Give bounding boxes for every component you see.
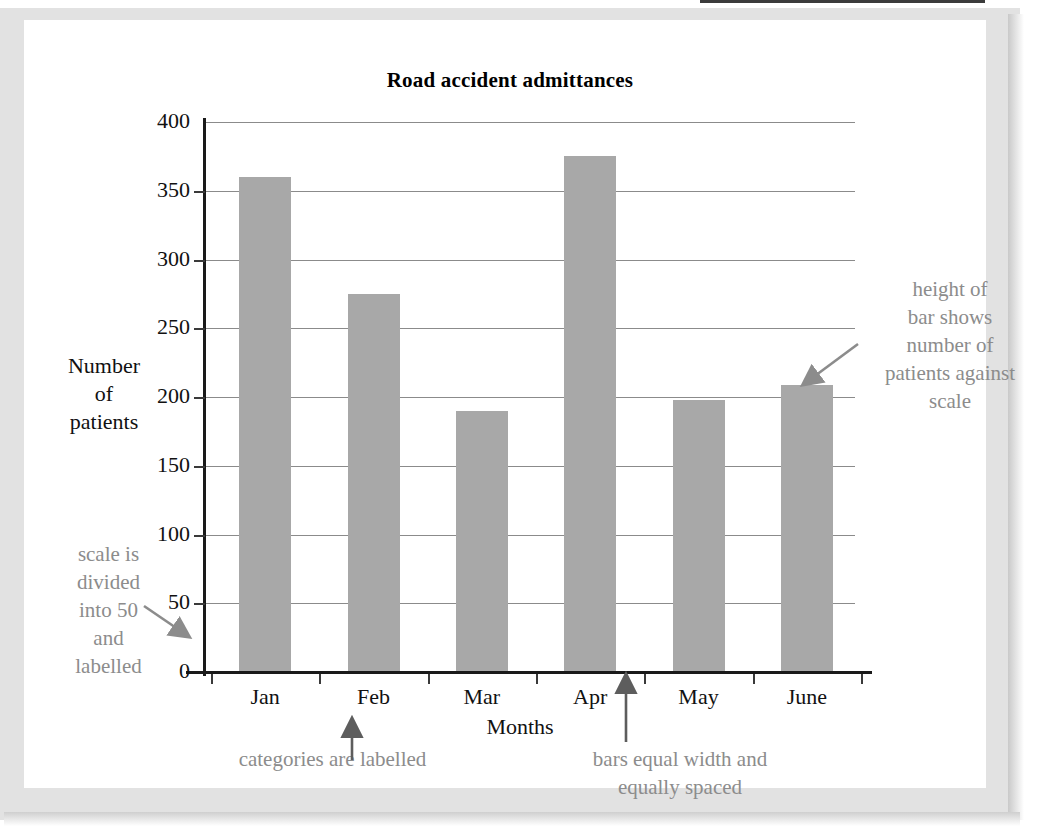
x-axis-tick [644, 674, 646, 684]
arrow-to-bar-gap [614, 672, 638, 744]
y-axis-tick [194, 260, 205, 262]
bar-june [781, 385, 833, 672]
x-axis-tick [861, 674, 863, 684]
y-axis-title-line: of [40, 380, 168, 408]
y-tick-label: 150 [130, 452, 190, 478]
gridline [205, 397, 855, 398]
annotation-height-of-bar: height ofbar showsnumber ofpatients agai… [860, 275, 1040, 415]
page-canvas: Road accident admittances 05010015020025… [0, 0, 1043, 832]
x-axis-title: Months [440, 714, 600, 740]
annotation-line: categories are labelled [200, 745, 465, 773]
x-tick-label-mar: Mar [422, 684, 542, 710]
gridline [205, 122, 855, 123]
chart-title: Road accident admittances [0, 68, 1020, 93]
y-axis-tick [194, 397, 205, 399]
x-tick-label-feb: Feb [314, 684, 434, 710]
bar-jan [239, 177, 291, 672]
bar-feb [348, 294, 400, 672]
arrow-to-feb-label [340, 716, 364, 762]
gridline [205, 535, 855, 536]
y-axis-tick [194, 466, 205, 468]
annotation-line: equally spaced [555, 773, 805, 801]
x-tick-label-june: June [747, 684, 867, 710]
annotation-bars-equal-width: bars equal width andequally spaced [555, 745, 805, 801]
gridline [205, 466, 855, 467]
x-tick-label-may: May [639, 684, 759, 710]
annotation-line: bars equal width and [555, 745, 805, 773]
y-axis-tick [194, 191, 205, 193]
annotation-line: scale is [46, 540, 171, 568]
y-tick-label: 250 [130, 314, 190, 340]
x-axis-tick [319, 674, 321, 684]
bar-mar [456, 411, 508, 672]
x-axis-tick [428, 674, 430, 684]
y-axis-title-line: Number [40, 352, 168, 380]
arrow-to-june-bar [790, 340, 870, 400]
x-tick-label-jan: Jan [205, 684, 325, 710]
x-axis-tick [536, 674, 538, 684]
annotation-line: bar shows [860, 303, 1040, 331]
arrow-to-y-scale [140, 600, 210, 650]
annotation-categories-labelled: categories are labelled [200, 745, 465, 773]
annotation-line: patients against [860, 359, 1040, 387]
y-tick-label: 300 [130, 246, 190, 272]
annotation-line: divided [46, 568, 171, 596]
bar-apr [564, 156, 616, 672]
x-axis-line [186, 671, 872, 674]
x-axis-tick [753, 674, 755, 684]
y-axis-title: Numberofpatients [40, 352, 168, 436]
gridline [205, 603, 855, 604]
sheet-shadow-right [1008, 14, 1024, 820]
page-header-rule [700, 0, 985, 3]
y-axis-tick [194, 535, 205, 537]
gridline [205, 260, 855, 261]
plot-area [205, 122, 855, 672]
sheet-shadow-bottom [4, 812, 1020, 826]
bar-may [673, 400, 725, 672]
annotation-line: labelled [46, 652, 171, 680]
y-axis-title-line: patients [40, 408, 168, 436]
y-axis-tick [194, 328, 205, 330]
y-tick-label: 350 [130, 177, 190, 203]
gridline [205, 328, 855, 329]
y-tick-label: 400 [130, 108, 190, 134]
y-axis-tick [194, 603, 205, 605]
annotation-line: scale [860, 387, 1040, 415]
gridline [205, 191, 855, 192]
x-axis-tick [211, 674, 213, 684]
annotation-line: number of [860, 331, 1040, 359]
annotation-line: height of [860, 275, 1040, 303]
